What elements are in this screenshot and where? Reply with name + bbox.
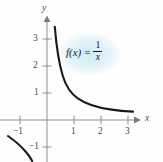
equals-sign: = <box>84 47 90 58</box>
fraction-denominator: x <box>94 52 102 62</box>
x-axis-label: x <box>145 114 149 124</box>
y-tick-label-1: 1 <box>34 88 39 98</box>
y-tick-label--1: −1 <box>29 142 39 152</box>
y-tick-label-3: 3 <box>33 34 38 44</box>
x-tick-label--1: −1 <box>13 127 23 137</box>
x-tick-label-3: 3 <box>125 127 130 137</box>
x-tick-label-2: 2 <box>98 127 103 137</box>
plot-canvas <box>0 0 163 162</box>
fraction: 1 x <box>93 40 102 62</box>
x-axis-arrow-icon <box>134 117 141 124</box>
function-name-text: f(x) <box>66 47 81 58</box>
function-graph-figure: y x −1 1 2 3 3 2 1 −1 f(x) = 1 x <box>0 0 163 162</box>
function-equation-label: f(x) = 1 x <box>66 41 102 63</box>
y-tick-label-2: 2 <box>33 61 38 71</box>
x-tick-label-1: 1 <box>71 127 76 137</box>
fraction-numerator: 1 <box>93 40 102 50</box>
y-axis-label: y <box>42 4 46 14</box>
y-axis-arrow-icon <box>44 16 51 23</box>
